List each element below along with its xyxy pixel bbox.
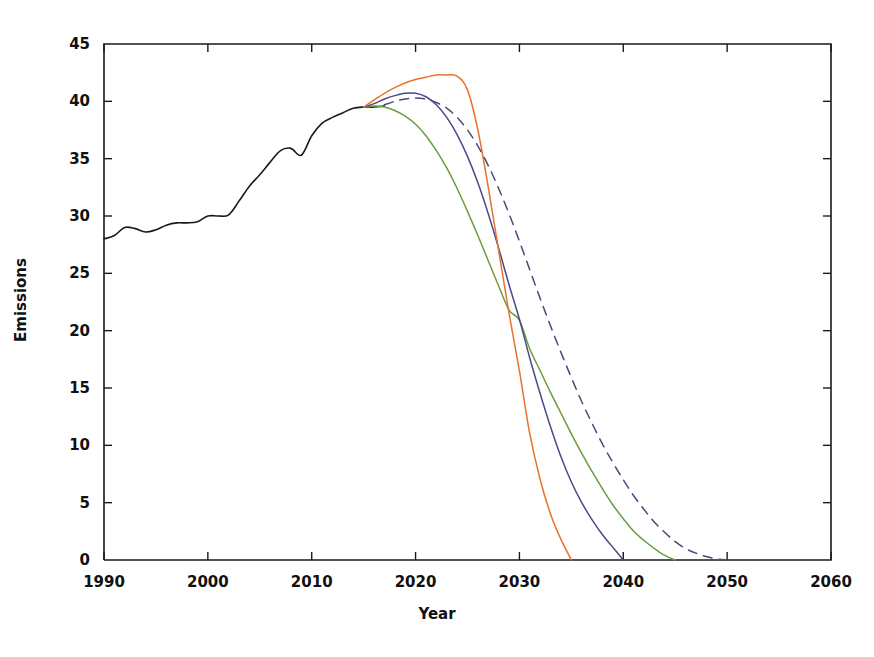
y-tick-label: 30 xyxy=(69,207,90,225)
x-tick-label: 2050 xyxy=(706,573,748,591)
x-tick-label: 1990 xyxy=(83,573,125,591)
y-tick-label: 15 xyxy=(69,379,90,397)
y-tick-label: 40 xyxy=(69,92,90,110)
x-tick-label: 2030 xyxy=(499,573,541,591)
data-series-group xyxy=(104,75,727,560)
series-line-dashed-scenario xyxy=(384,98,727,560)
series-line-historical xyxy=(104,106,384,239)
y-tick-label: 5 xyxy=(80,494,90,512)
y-tick-labels: 051015202530354045 xyxy=(69,35,90,569)
x-tick-label: 2010 xyxy=(291,573,333,591)
emissions-chart: 19902000201020202030204020502060 0510152… xyxy=(0,0,874,657)
series-line-green-scenario xyxy=(364,106,676,560)
x-axis-title: Year xyxy=(417,605,456,623)
axes-frame xyxy=(104,44,831,560)
y-tick-label: 0 xyxy=(80,551,90,569)
y-tick-label: 45 xyxy=(69,35,90,53)
x-tick-label: 2040 xyxy=(602,573,644,591)
y-tick-label: 10 xyxy=(69,436,90,454)
y-axis-title: Emissions xyxy=(12,258,30,342)
y-tick-label: 20 xyxy=(69,322,90,340)
series-line-orange-scenario xyxy=(364,75,572,560)
chart-canvas: 19902000201020202030204020502060 0510152… xyxy=(0,0,874,657)
plot-frame xyxy=(104,44,831,560)
y-axis-ticks xyxy=(104,101,831,502)
y-tick-label: 25 xyxy=(69,264,90,282)
x-tick-label: 2020 xyxy=(395,573,437,591)
x-tick-labels: 19902000201020202030204020502060 xyxy=(83,573,852,591)
y-tick-label: 35 xyxy=(69,150,90,168)
x-axis-ticks xyxy=(104,44,831,560)
x-tick-label: 2060 xyxy=(810,573,852,591)
x-tick-label: 2000 xyxy=(187,573,229,591)
series-line-navy-scenario xyxy=(364,93,624,560)
